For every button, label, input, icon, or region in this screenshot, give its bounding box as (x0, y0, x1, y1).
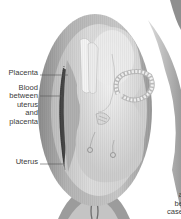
label-blood-between-uterus-and-placenta: Blood between uterus and placenta (0, 84, 38, 126)
diagram-figure: Placenta Blood between uterus and placen… (0, 0, 181, 219)
text-line: case (167, 208, 181, 217)
background-arc (148, 0, 181, 210)
label-line: placenta (0, 118, 38, 126)
label-placenta: Placenta (8, 69, 38, 77)
truncated-body-text: a be case (167, 191, 181, 217)
label-uterus: Uterus (16, 158, 38, 166)
